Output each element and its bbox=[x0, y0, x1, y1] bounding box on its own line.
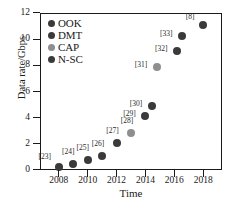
data-point bbox=[141, 112, 149, 120]
legend-label: OOK bbox=[58, 18, 82, 29]
data-point-reference-label: [33] bbox=[160, 30, 173, 38]
data-point bbox=[173, 47, 181, 55]
data-point-reference-label: [30] bbox=[130, 100, 143, 108]
y-axis-tick-label: 8 bbox=[4, 60, 30, 70]
data-point bbox=[199, 21, 207, 29]
y-axis-tick bbox=[33, 12, 40, 13]
data-point bbox=[98, 152, 106, 160]
legend-label: DMT bbox=[58, 30, 82, 41]
y-axis-tick bbox=[33, 39, 40, 40]
legend-item-n-sc: N-SC bbox=[48, 53, 83, 65]
legend-marker-icon bbox=[48, 44, 55, 51]
x-axis-tick-label: 2018 bbox=[185, 176, 221, 186]
legend-marker-icon bbox=[48, 20, 55, 27]
x-axis-label: Time bbox=[40, 187, 222, 199]
data-point bbox=[69, 160, 77, 168]
data-point-reference-label: [8] bbox=[186, 14, 195, 22]
data-point-reference-label: [24] bbox=[62, 148, 75, 156]
data-point bbox=[178, 32, 186, 40]
y-axis-tick bbox=[33, 143, 40, 144]
y-axis-tick bbox=[33, 169, 40, 170]
legend-label: CAP bbox=[58, 42, 79, 53]
data-point-reference-label: [31] bbox=[135, 62, 148, 70]
data-point bbox=[127, 129, 135, 137]
y-axis-tick bbox=[33, 117, 40, 118]
y-axis-tick bbox=[33, 91, 40, 92]
y-axis-tick bbox=[33, 65, 40, 66]
y-axis-tick-label: 10 bbox=[4, 34, 30, 44]
data-point-reference-label: [28] bbox=[121, 117, 134, 125]
y-axis-tick-label: 12 bbox=[4, 8, 30, 18]
legend-item-dmt: DMT bbox=[48, 29, 83, 41]
legend-label: N-SC bbox=[58, 54, 83, 65]
chart-legend: OOKDMTCAPN-SC bbox=[48, 17, 83, 65]
data-point bbox=[153, 63, 161, 71]
data-point-reference-label: [26] bbox=[92, 140, 105, 148]
scatter-chart-figure: Data rate/Gbps Time OOKDMTCAPN-SC [23][2… bbox=[0, 0, 235, 204]
data-point-reference-label: [23] bbox=[39, 153, 52, 161]
y-axis-tick-label: 4 bbox=[4, 113, 30, 123]
y-axis-tick-label: 0 bbox=[4, 165, 30, 175]
data-point bbox=[84, 156, 92, 164]
data-point-reference-label: [27] bbox=[106, 127, 119, 135]
data-point bbox=[113, 139, 121, 147]
data-point-reference-label: [25] bbox=[76, 144, 89, 152]
data-point bbox=[148, 102, 156, 110]
legend-marker-icon bbox=[48, 32, 55, 39]
legend-item-cap: CAP bbox=[48, 41, 83, 53]
data-point-reference-label: [32] bbox=[155, 45, 168, 53]
legend-item-ook: OOK bbox=[48, 17, 83, 29]
legend-marker-icon bbox=[48, 56, 55, 63]
data-point-reference-label: [29] bbox=[123, 110, 136, 118]
y-axis-tick-label: 6 bbox=[4, 87, 30, 97]
y-axis-tick-label: 2 bbox=[4, 139, 30, 149]
